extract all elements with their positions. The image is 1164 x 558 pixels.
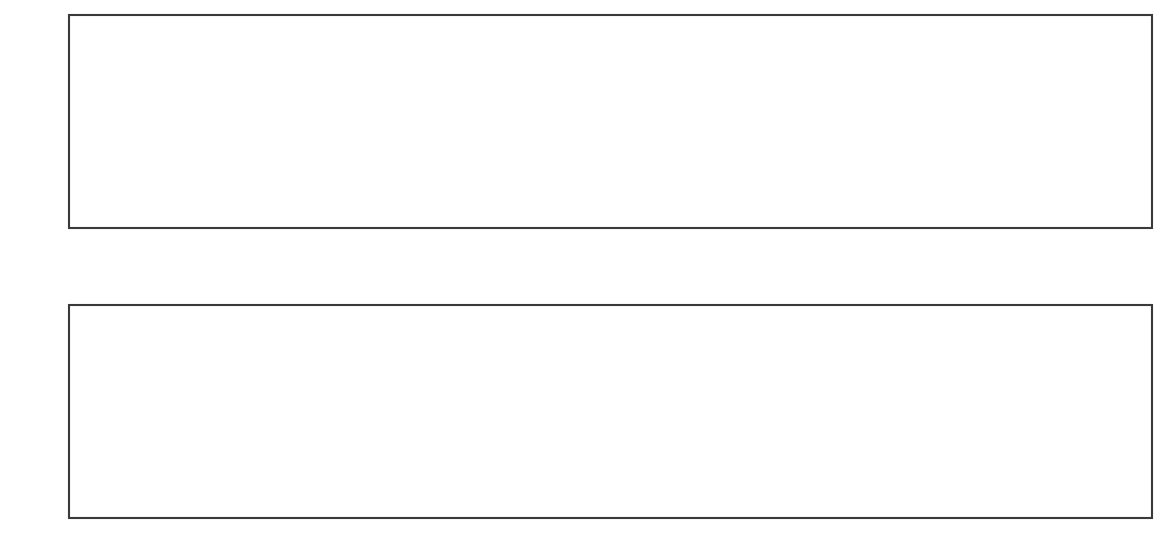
weight-panel bbox=[0, 290, 1164, 558]
weight-axis-frame bbox=[69, 305, 1152, 518]
length-panel-plot bbox=[0, 0, 1164, 290]
length-axis-frame bbox=[69, 15, 1152, 228]
weight-panel-plot bbox=[0, 290, 1164, 558]
figure-canvas bbox=[0, 0, 1164, 558]
